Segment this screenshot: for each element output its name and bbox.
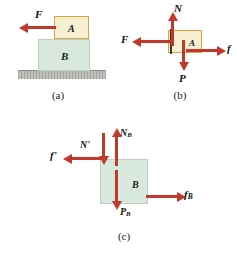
force-f-arrowhead [217, 46, 226, 56]
force-F-arrowhead [19, 23, 28, 33]
panel-c: B N' NB PB f' [0, 108, 237, 256]
block-b-label: B [132, 180, 139, 190]
block-a: A [54, 16, 89, 39]
force-N-prime-shaft [102, 133, 105, 157]
force-P-label: P [179, 73, 186, 84]
force-P-B-subscript: B [126, 210, 131, 217]
force-P-arrowhead [179, 62, 189, 71]
force-f-prime-shaft [72, 157, 104, 160]
force-N-B-label: NB [120, 128, 132, 139]
ground-surface [18, 70, 106, 79]
force-N-prime-label: N' [80, 140, 90, 150]
force-f-B-shaft [146, 195, 178, 198]
force-f-B-label: fB [184, 189, 193, 201]
force-F-shaft [28, 26, 56, 29]
block-b: B [38, 39, 90, 71]
block-b-label: B [61, 51, 68, 62]
panel-a: B A F (a) [0, 0, 118, 108]
block-a-label: A [189, 39, 195, 48]
force-P-B-label: PB [120, 207, 131, 218]
force-N-B-shaft [115, 136, 118, 166]
force-N-B-subscript: B [127, 131, 132, 138]
force-N-label: N [174, 3, 182, 14]
force-F-shaft [141, 40, 171, 43]
force-f-prime-label: f' [50, 150, 57, 161]
panel-a-caption: (a) [38, 90, 78, 101]
block-a-label: A [68, 24, 75, 34]
force-N-shaft [171, 20, 174, 46]
force-F-label: F [35, 9, 42, 20]
force-F-label: F [121, 34, 128, 45]
force-P-shaft [182, 40, 185, 63]
physics-free-body-diagram-figure: B A F (a) A N P [0, 0, 237, 256]
force-f-B-subscript: B [188, 192, 193, 201]
force-P-B-shaft [115, 170, 118, 202]
panel-c-caption: (c) [104, 231, 144, 242]
panel-b-caption: (b) [160, 90, 200, 101]
force-f-shaft [186, 49, 218, 52]
force-f-label: f [227, 43, 231, 54]
panel-b: A N P F f (b) [118, 0, 237, 108]
force-F-arrowhead [132, 37, 141, 47]
force-f-prime-arrowhead [63, 154, 72, 164]
block-b: B [100, 159, 148, 204]
